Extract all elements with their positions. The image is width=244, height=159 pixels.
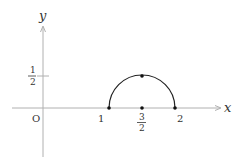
- x-tick-label-3-den: 2: [139, 123, 145, 133]
- x-tick-label-2: 2: [177, 113, 183, 124]
- point-1-0: [107, 106, 111, 110]
- point-top: [140, 74, 144, 78]
- x-tick-label-1: 1: [98, 113, 104, 124]
- y-axis-label: y: [38, 8, 47, 23]
- coordinate-diagram: y x O 1 2 1 3 2 2: [0, 0, 244, 159]
- y-tick-label-den: 2: [30, 77, 36, 87]
- origin-label: O: [32, 113, 40, 124]
- y-tick-label-num: 1: [30, 65, 36, 75]
- point-2-0: [173, 106, 177, 110]
- semicircle-curve: [109, 75, 175, 108]
- point-center: [140, 106, 144, 110]
- x-tick-label-3-num: 3: [139, 112, 145, 122]
- x-axis-label: x: [224, 100, 232, 115]
